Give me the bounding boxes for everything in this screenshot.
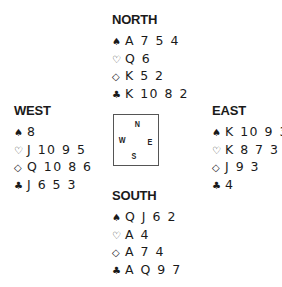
north-spades: A 7 5 4 [125, 33, 180, 48]
spade-icon: ♠ [112, 209, 125, 227]
south-clubs-row: ♣A Q 9 7 [112, 261, 182, 279]
east-spades-row: ♠K 10 9 3 [212, 123, 282, 141]
spade-icon: ♠ [212, 124, 225, 142]
south-hand: SOUTH ♠Q J 6 2 ♡A 4 ◇A 7 4 ♣A Q 9 7 [112, 188, 182, 278]
west-spades-row: ♠8 [14, 123, 93, 141]
north-spades-row: ♠A 7 5 4 [112, 32, 189, 50]
club-icon: ♣ [212, 177, 225, 195]
east-spades: K 10 9 3 [225, 124, 282, 139]
west-hearts: J 10 9 5 [27, 142, 86, 157]
east-clubs: 4 [225, 177, 234, 192]
club-icon: ♣ [14, 177, 27, 195]
south-clubs: A Q 9 7 [125, 262, 182, 277]
north-clubs: K 10 8 2 [125, 86, 189, 101]
north-clubs-row: ♣K 10 8 2 [112, 85, 189, 103]
spade-icon: ♠ [112, 33, 125, 51]
south-spades-row: ♠Q J 6 2 [112, 208, 182, 226]
diamond-icon: ◇ [14, 159, 27, 177]
east-hearts: K 8 7 3 2 [225, 142, 282, 157]
compass-west-label: W [119, 135, 126, 145]
east-diamonds: J 9 3 [225, 159, 260, 174]
compass-east-label: E [148, 137, 153, 147]
west-spades: 8 [27, 124, 36, 139]
diamond-icon: ◇ [112, 244, 125, 262]
east-diamonds-row: ◇J 9 3 [212, 158, 282, 176]
north-diamonds: K 5 2 [125, 68, 165, 83]
west-hearts-row: ♡J 10 9 5 [14, 141, 93, 159]
compass-south-label: S [132, 151, 137, 161]
south-title: SOUTH [112, 188, 182, 204]
south-diamonds-row: ◇A 7 4 [112, 243, 182, 261]
compass-north-label: N [135, 119, 140, 129]
south-hearts-row: ♡A 4 [112, 226, 182, 244]
diamond-icon: ◇ [112, 68, 125, 86]
club-icon: ♣ [112, 86, 125, 104]
north-hand: NORTH ♠A 7 5 4 ♡Q 6 ◇K 5 2 ♣K 10 8 2 [112, 12, 189, 102]
compass-box: N W E S [113, 114, 159, 166]
south-diamonds: A 7 4 [125, 244, 165, 259]
west-hand: WEST ♠8 ♡J 10 9 5 ◇Q 10 8 6 ♣J 6 5 3 [14, 103, 93, 193]
diamond-icon: ◇ [212, 159, 225, 177]
west-diamonds: Q 10 8 6 [27, 159, 93, 174]
east-hand: EAST ♠K 10 9 3 ♡K 8 7 3 2 ◇J 9 3 ♣4 [212, 103, 282, 193]
north-title: NORTH [112, 12, 189, 28]
east-clubs-row: ♣4 [212, 176, 282, 194]
heart-icon: ♡ [14, 142, 27, 160]
west-clubs: J 6 5 3 [27, 177, 77, 192]
south-spades: Q J 6 2 [125, 209, 177, 224]
heart-icon: ♡ [212, 142, 225, 160]
south-hearts: A 4 [125, 227, 150, 242]
heart-icon: ♡ [112, 227, 125, 245]
north-hearts-row: ♡Q 6 [112, 50, 189, 68]
spade-icon: ♠ [14, 124, 27, 142]
east-title: EAST [212, 103, 282, 119]
north-diamonds-row: ◇K 5 2 [112, 67, 189, 85]
east-hearts-row: ♡K 8 7 3 2 [212, 141, 282, 159]
west-title: WEST [14, 103, 93, 119]
west-diamonds-row: ◇Q 10 8 6 [14, 158, 93, 176]
club-icon: ♣ [112, 262, 125, 280]
heart-icon: ♡ [112, 51, 125, 69]
north-hearts: Q 6 [125, 51, 151, 66]
west-clubs-row: ♣J 6 5 3 [14, 176, 93, 194]
